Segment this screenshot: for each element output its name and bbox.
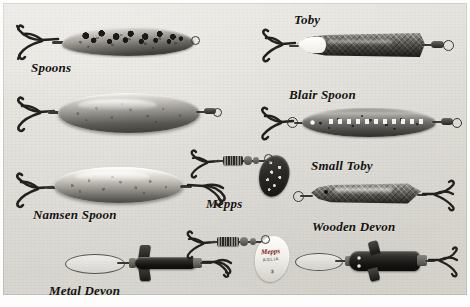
lure-toby: [255, 25, 463, 71]
spinner-bead: [250, 238, 256, 245]
toby-belly-highlight: [328, 40, 392, 45]
label-small-toby: Small Toby: [311, 158, 373, 174]
small-toby-highlight: [335, 188, 392, 193]
mepps-brand-text: Mepps: [261, 248, 281, 256]
spinner-bead: [240, 237, 248, 246]
split-ring-icon: [443, 40, 454, 51]
screenshot-root: Mepps AGLIA 3: [0, 0, 470, 307]
devon-eye: [357, 256, 361, 260]
lure-wooden-devon: [295, 239, 465, 287]
spinner-body-coil: [223, 156, 243, 165]
split-ring-icon: [191, 36, 200, 45]
devon-vane-upper: [368, 240, 381, 255]
nose-link-wire: [300, 195, 313, 197]
split-ring-icon: [261, 235, 270, 244]
mepps-size-text: 3: [271, 269, 274, 274]
blair-blade: [302, 108, 436, 137]
label-metal-devon: Metal Devon: [49, 283, 120, 295]
lure-mepps-dark: [185, 149, 297, 201]
blade-highlight: [78, 99, 158, 111]
lure-blair-spoon: [255, 103, 465, 149]
mepps-model-text: AGLIA: [263, 257, 280, 263]
label-namsen-spoon: Namsen Spoon: [33, 207, 117, 223]
spoon-blade: [62, 27, 194, 56]
label-blair-spoon: Blair Spoon: [289, 87, 356, 103]
label-spoons: Spoons: [31, 60, 71, 76]
lure-photograph: Mepps AGLIA 3: [3, 3, 467, 295]
split-ring-icon: [213, 108, 222, 117]
blade-highlight-row: [329, 119, 423, 124]
label-toby: Toby: [294, 12, 320, 28]
spinner-body-coil: [217, 237, 239, 246]
blade-eye: [310, 120, 315, 125]
spoon-blade: [58, 93, 200, 133]
treble-hook-icon: [427, 245, 465, 279]
treble-hook-icon: [8, 95, 60, 137]
blade-spot-pattern: [62, 27, 194, 56]
label-mepps: Mepps: [206, 196, 242, 212]
blade-highlight: [75, 171, 150, 183]
wire-loop-trace: [65, 254, 125, 274]
treble-hook-icon: [181, 231, 221, 265]
devon-body: [349, 251, 421, 271]
lure-small-toby: [293, 175, 465, 219]
treble-hook-icon: [185, 149, 225, 183]
blade-texture: [62, 27, 194, 56]
spoon-blade: [54, 167, 184, 203]
small-toby-eye: [324, 190, 328, 194]
spinner-bead: [253, 157, 259, 164]
toby-body: [297, 33, 425, 57]
lure-plain-spoon: [8, 87, 218, 143]
treble-hook-icon: [421, 177, 463, 215]
split-ring-icon: [452, 118, 462, 128]
split-ring-icon: [264, 154, 273, 163]
label-wooden-devon: Wooden Devon: [312, 219, 395, 235]
devon-eye: [357, 264, 361, 268]
small-toby-body: [311, 183, 421, 204]
toby-head-patch: [298, 37, 326, 52]
spinner-bead: [244, 156, 252, 165]
lure-mepps-white: Mepps AGLIA 3: [181, 231, 303, 291]
